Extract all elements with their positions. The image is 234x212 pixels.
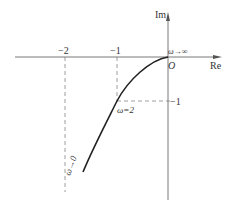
real-axis-arrow-icon	[213, 55, 222, 59]
im-label: Im	[155, 9, 166, 20]
nyquist-diagram: Im Re O −2 −1 −1 ω→∞ ω=2 ω→0	[0, 0, 234, 212]
imag-axis-arrow-icon	[166, 12, 170, 21]
re-label: Re	[210, 60, 222, 71]
tick-y-minus-1: −1	[170, 96, 181, 107]
plot-canvas: Im Re O −2 −1 −1 ω→∞ ω=2 ω→0	[0, 0, 234, 212]
omega-infinity-label: ω→∞	[168, 47, 188, 56]
origin-label: O	[168, 60, 175, 71]
tick-x-minus-2: −2	[58, 45, 69, 56]
tick-x-minus-1: −1	[110, 45, 121, 56]
omega-2-label: ω=2	[117, 105, 134, 115]
